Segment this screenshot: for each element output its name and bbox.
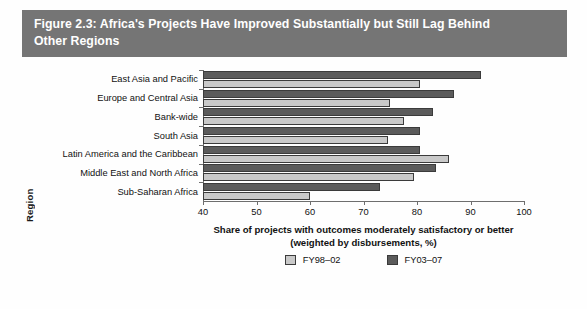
x-axis-title-line-2: (weighted by disbursements, %) bbox=[203, 237, 524, 250]
x-axis-tick-label: 80 bbox=[412, 207, 422, 217]
y-axis-tick-label: South Asia bbox=[154, 131, 198, 141]
figure-title-banner: Figure 2.3: Africa's Projects Have Impro… bbox=[22, 10, 567, 57]
bar-fy03-07 bbox=[203, 90, 454, 98]
legend-label-fy98-02: FY98–02 bbox=[303, 255, 341, 265]
x-axis-tick bbox=[417, 201, 418, 205]
x-axis-tick bbox=[310, 201, 311, 205]
bar-fy03-07 bbox=[203, 146, 420, 154]
bar-fy98-02 bbox=[203, 99, 390, 107]
legend-swatch-icon-fy03-07 bbox=[387, 255, 398, 265]
y-axis-tick-label: Sub-Saharan Africa bbox=[117, 187, 198, 197]
figure-title-line-2: Other Regions bbox=[34, 33, 555, 50]
x-axis-tick bbox=[524, 201, 525, 205]
y-axis-tick-labels: East Asia and PacificEurope and Central … bbox=[48, 70, 198, 200]
x-axis-tick bbox=[257, 201, 258, 205]
x-axis-tick bbox=[203, 201, 204, 205]
legend-item-fy98-02: FY98–02 bbox=[285, 255, 341, 265]
x-axis-tick-label: 50 bbox=[251, 207, 261, 217]
chart-area: Region East Asia and PacificEurope and C… bbox=[0, 57, 587, 309]
bar-fy98-02 bbox=[203, 173, 414, 181]
bar-fy98-02 bbox=[203, 155, 449, 163]
bar-fy03-07 bbox=[203, 71, 481, 79]
x-axis-tick-label: 90 bbox=[465, 207, 475, 217]
bar-fy03-07 bbox=[203, 164, 436, 172]
x-axis-tick bbox=[471, 201, 472, 205]
y-axis-tick-label: Europe and Central Asia bbox=[97, 93, 198, 103]
x-axis-tick-label: 60 bbox=[305, 207, 315, 217]
bar-fy98-02 bbox=[203, 192, 310, 200]
bar-fy98-02 bbox=[203, 80, 420, 88]
y-axis-tick-label: Middle East and North Africa bbox=[80, 168, 198, 178]
bar-fy03-07 bbox=[203, 183, 380, 191]
x-axis-tick-label: 70 bbox=[358, 207, 368, 217]
x-axis-title-line-1: Share of projects with outcomes moderate… bbox=[203, 224, 524, 237]
bar-fy98-02 bbox=[203, 117, 404, 125]
y-axis-title: Region bbox=[24, 175, 38, 235]
plot-canvas: 405060708090100 bbox=[203, 70, 524, 201]
x-axis-tick-label: 40 bbox=[198, 207, 208, 217]
figure-title-line-1: Figure 2.3: Africa's Projects Have Impro… bbox=[34, 16, 555, 33]
y-axis-tick-label: Latin America and the Caribbean bbox=[63, 149, 198, 159]
bar-fy98-02 bbox=[203, 136, 388, 144]
y-axis-tick-label: East Asia and Pacific bbox=[111, 74, 198, 84]
y-axis-tick-label: Bank-wide bbox=[155, 112, 198, 122]
bar-fy03-07 bbox=[203, 108, 433, 116]
legend-swatch-icon-fy98-02 bbox=[285, 255, 296, 265]
x-axis-tick bbox=[364, 201, 365, 205]
chart-legend: FY98–02 FY03–07 bbox=[203, 253, 524, 267]
bar-fy03-07 bbox=[203, 127, 420, 135]
legend-item-fy03-07: FY03–07 bbox=[387, 255, 443, 265]
legend-label-fy03-07: FY03–07 bbox=[405, 255, 443, 265]
figure-card: Figure 2.3: Africa's Projects Have Impro… bbox=[0, 0, 587, 309]
x-axis-title: Share of projects with outcomes moderate… bbox=[203, 224, 524, 249]
x-axis-tick-label: 100 bbox=[516, 207, 532, 217]
